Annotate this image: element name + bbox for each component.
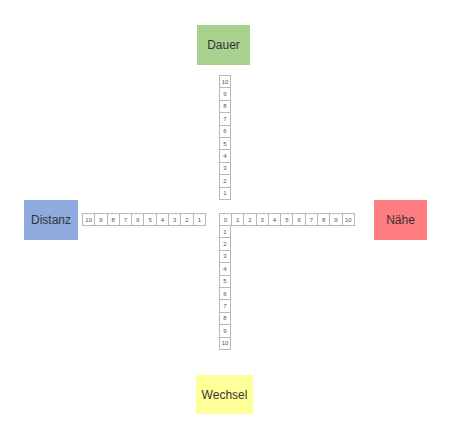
axis-cell: 8 [219,312,231,325]
axis-cell: 6 [131,213,144,226]
axis-cell: 2 [243,213,256,226]
axis-cell: 3 [256,213,269,226]
axis-cell: 5 [280,213,293,226]
pole-distanz: Distanz [24,200,78,240]
vertical-axis-bottom: 12345678910 [219,226,231,350]
axis-cell: 5 [219,275,231,288]
axis-cell: 7 [219,112,231,125]
axis-cell: 7 [219,299,231,312]
axis-cell: 1 [219,187,231,200]
horizontal-axis-left: 10987654321 [83,213,206,226]
axis-cell: 1 [193,213,206,226]
axis-cell: 10 [219,75,231,88]
horizontal-axis-right: 12345678910 [232,213,355,226]
pole-naehe: Nähe [374,200,427,240]
axis-cell: 6 [219,125,231,138]
axis-cell: 9 [329,213,342,226]
axis-cell: 8 [219,100,231,113]
axis-cell: 9 [94,213,107,226]
axis-cell: 8 [107,213,120,226]
axis-cell: 2 [219,174,231,187]
axis-cell: 7 [119,213,132,226]
axis-cell: 1 [231,213,244,226]
axis-cell: 5 [143,213,156,226]
axis-cell: 10 [82,213,95,226]
pole-wechsel: Wechsel [196,375,253,414]
axis-cell: 6 [292,213,305,226]
axis-cell: 2 [180,213,193,226]
axis-cell: 10 [219,337,231,350]
axis-cell: 4 [156,213,169,226]
axis-cell: 3 [168,213,181,226]
axis-cell: 7 [305,213,318,226]
axis-cell: 6 [219,287,231,300]
vertical-axis-top: 10987654321 [219,76,231,200]
pole-dauer: Dauer [197,25,250,65]
axis-cell: 3 [219,162,231,175]
axis-cell: 4 [268,213,281,226]
axis-cell: 5 [219,137,231,150]
axis-cell: 1 [219,225,231,238]
axis-cell: 4 [219,149,231,162]
axis-cell: 9 [219,87,231,100]
axis-cell: 9 [219,324,231,337]
axis-cell: 4 [219,262,231,275]
axis-cell: 2 [219,237,231,250]
axis-cell: 10 [342,213,355,226]
axis-cell: 3 [219,250,231,263]
axis-cell: 8 [317,213,330,226]
